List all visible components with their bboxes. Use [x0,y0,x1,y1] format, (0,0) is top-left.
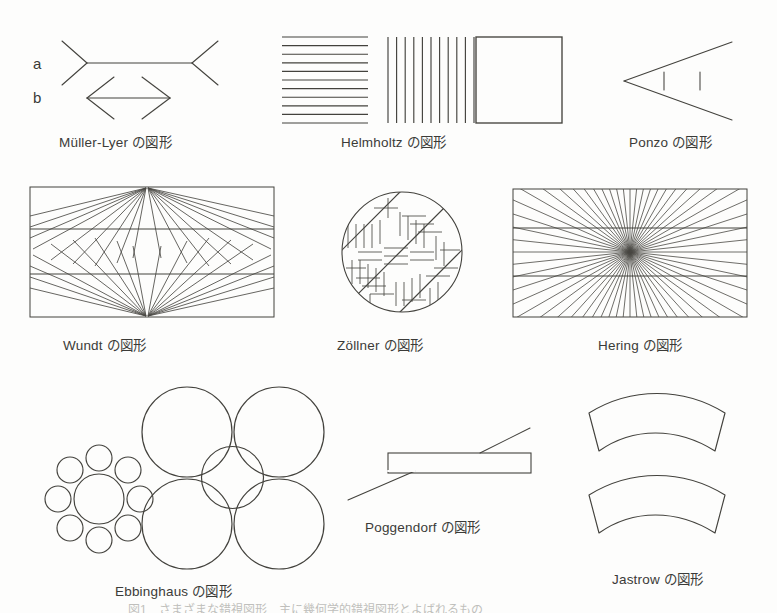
figure-helmholtz [280,34,565,126]
label-wundt: Wundt の図形 [63,334,146,354]
label-ponzo: Ponzo の図形 [629,131,712,151]
figure-poggendorf [340,420,555,520]
illusion-figures-plate: a b Müller-Lyer の図形 [0,0,777,613]
label-poggendorf: Poggendorf の図形 [365,516,480,536]
plate-bottom-caption: 図1 さまざまな錯視図形 主に幾何学的錯視図形とよばれるもの [128,600,483,613]
jastrow-drawing [565,383,745,543]
figure-ponzo [620,36,740,126]
zollner-drawing [340,190,464,314]
figure-hering [512,188,748,318]
hering-drawing [512,188,748,318]
helmholtz-drawing [280,34,565,126]
figure-muller-lyer [30,28,230,128]
ponzo-drawing [620,36,740,126]
ebbinghaus-right-drawing [140,385,325,570]
figure-jastrow [565,383,745,543]
muller-lyer-annotation-b: b [33,89,41,106]
label-ebbinghaus: Ebbinghaus の図形 [115,580,232,600]
muller-lyer-drawing [30,28,230,128]
figure-zollner [340,190,464,314]
label-jastrow: Jastrow の図形 [612,568,703,588]
label-muller-lyer: Müller-Lyer の図形 [59,131,172,151]
label-helmholtz: Helmholtz の図形 [341,131,446,151]
figure-wundt [29,186,275,318]
label-hering: Hering の図形 [598,334,683,354]
wundt-drawing [29,186,275,318]
label-zollner: Zöllner の図形 [337,334,423,354]
poggendorf-drawing [340,420,555,520]
muller-lyer-annotation-a: a [33,55,41,72]
figure-ebbinghaus-large-surround [140,385,325,570]
